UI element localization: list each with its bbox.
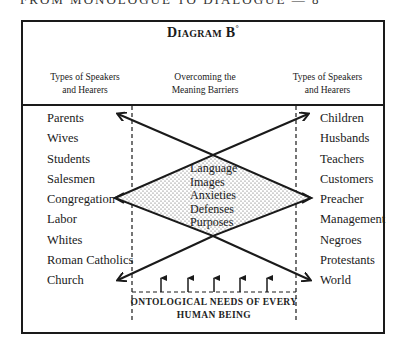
left-speaker-list: Parents Wives Students Salesmen Congrega… <box>47 108 133 291</box>
barrier-item: Anxieties <box>190 189 237 203</box>
list-item: Parents <box>47 108 133 128</box>
arrow-to-children <box>213 114 308 155</box>
need-arrows <box>161 278 267 292</box>
needs-line-1: ONTOLOGICAL NEEDS OF EVERY <box>130 296 298 309</box>
needs-line-2: HUMAN BEING <box>130 309 298 322</box>
list-item: World <box>320 270 385 290</box>
meaning-barriers-list: Language Images Anxieties Defenses Purpo… <box>190 162 237 230</box>
list-item: Management <box>320 209 385 229</box>
list-item: Congregation <box>47 189 133 209</box>
list-item: Children <box>320 108 385 128</box>
list-item: Husbands <box>320 128 385 148</box>
list-item: Church <box>47 270 133 290</box>
list-item: Negroes <box>320 230 385 250</box>
list-item: Students <box>47 149 133 169</box>
list-item: Wives <box>47 128 133 148</box>
barrier-item: Purposes <box>190 216 237 230</box>
list-item: Whites <box>47 230 133 250</box>
barrier-item: Language <box>190 162 237 176</box>
list-item: Roman Catholics <box>47 250 133 270</box>
barrier-item: Images <box>190 176 237 190</box>
right-speaker-list: Children Husbands Teachers Customers Pre… <box>320 108 385 291</box>
list-item: Preacher <box>320 189 385 209</box>
list-item: Teachers <box>320 149 385 169</box>
list-item: Customers <box>320 169 385 189</box>
list-item: Labor <box>47 209 133 229</box>
ontological-needs-label: ONTOLOGICAL NEEDS OF EVERY HUMAN BEING <box>130 296 298 322</box>
list-item: Protestants <box>320 250 385 270</box>
barrier-item: Defenses <box>190 203 237 217</box>
list-item: Salesmen <box>47 169 133 189</box>
